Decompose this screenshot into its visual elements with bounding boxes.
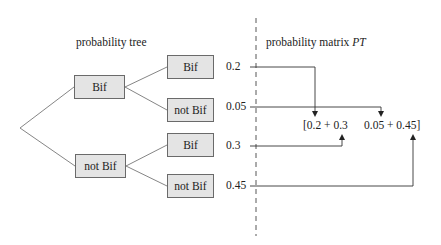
- prob-value: 0.45: [226, 180, 246, 192]
- tree-leaf-not-bif-not-bif: not Bif: [167, 174, 214, 198]
- prob-value: 0.05: [226, 101, 246, 113]
- tree-node-not-bif: not Bif: [75, 154, 126, 178]
- matrix-symbol: PT: [352, 36, 365, 48]
- matrix-right-entry: 0.05 + 0.45]: [364, 120, 420, 132]
- prob-value: 0.3: [226, 140, 240, 152]
- tree-leaf-not-bif-bif: Bif: [167, 133, 214, 157]
- matrix-title: probability matrix PT: [266, 37, 366, 49]
- tree-leaf-bif-not-bif: not Bif: [167, 98, 214, 122]
- tree-leaf-bif-bif: Bif: [167, 55, 214, 79]
- matrix-title-text: probability matrix: [266, 36, 352, 48]
- tree-node-bif: Bif: [74, 75, 125, 99]
- matrix-left-entry: [0.2 + 0.3: [303, 120, 348, 132]
- prob-value: 0.2: [226, 61, 240, 73]
- tree-title: probability tree: [76, 37, 147, 49]
